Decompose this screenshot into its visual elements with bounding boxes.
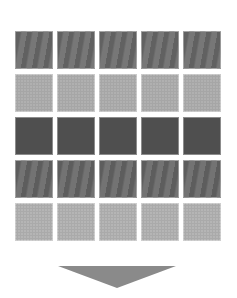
tile [15,117,53,155]
tile [183,203,221,241]
tile-row-2 [15,74,221,112]
tile [99,203,137,241]
tile [99,117,137,155]
tile [183,117,221,155]
tile [183,74,221,112]
tile-grid [15,31,221,246]
tile-row-1 [15,31,221,69]
down-arrow-icon [58,266,176,288]
tile [57,74,95,112]
tile [57,31,95,69]
tile [57,203,95,241]
tile [183,160,221,198]
tile [15,31,53,69]
tile [141,31,179,69]
tile [141,117,179,155]
tile [99,160,137,198]
tile [99,31,137,69]
tile [15,203,53,241]
tile [141,74,179,112]
tile [141,160,179,198]
tile [57,117,95,155]
tile-row-3 [15,117,221,155]
tile [15,74,53,112]
tile-row-4 [15,160,221,198]
tile-row-5 [15,203,221,241]
tile [141,203,179,241]
tile [15,160,53,198]
tile [183,31,221,69]
tile [57,160,95,198]
tile [99,74,137,112]
